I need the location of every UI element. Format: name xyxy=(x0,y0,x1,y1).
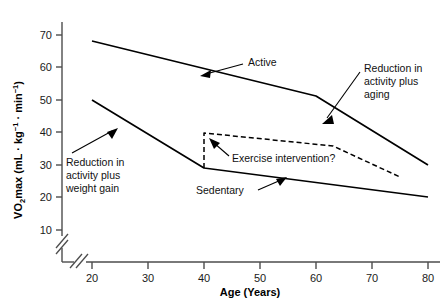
x-axis-break-icon xyxy=(70,254,88,268)
x-tick-label-50: 50 xyxy=(254,272,266,284)
annotation-exercise-intervention: Exercise intervention? xyxy=(209,138,335,164)
annotation-aging-label-line2: activity plus xyxy=(364,75,418,87)
y-axis-title-mid: · min xyxy=(12,93,24,123)
annotation-sedentary-label: Sedentary xyxy=(196,184,245,196)
y-axis-title: VO2max (mL · kg−1 · min−1) xyxy=(11,81,27,219)
y-tick-label-70: 70 xyxy=(40,29,52,41)
annotation-exercise-label: Exercise intervention? xyxy=(232,152,335,164)
annotation-weight-gain-leader xyxy=(72,131,112,153)
y-axis-title-main: VO xyxy=(12,203,24,219)
annotation-aging-label-line3: aging xyxy=(364,88,390,100)
y-tick-label-40: 40 xyxy=(40,126,52,138)
chart-figure: VO2max (mL · kg−1 · min−1) 70 60 50 xyxy=(0,0,448,300)
annotation-weight-gain-label-line1: Reduction in xyxy=(66,156,125,168)
svg-text:VO2max (mL · kg−1 · min−1): VO2max (mL · kg−1 · min−1) xyxy=(11,81,27,219)
x-axis-title: Age (Years) xyxy=(220,286,281,298)
y-tick-label-10: 10 xyxy=(40,224,52,236)
x-tick-label-20: 20 xyxy=(86,272,98,284)
annotation-aging-label-line1: Reduction in xyxy=(364,62,423,74)
annotation-sedentary: Sedentary xyxy=(196,177,287,196)
annotation-reduction-activity-aging: Reduction in activity plus aging xyxy=(322,62,423,124)
x-tick-label-30: 30 xyxy=(142,272,154,284)
x-tick-label-60: 60 xyxy=(310,272,322,284)
annotation-weight-gain-arrowhead-icon xyxy=(107,128,118,139)
y-axis-title-sup1: −1 xyxy=(11,123,20,132)
series-line-sedentary xyxy=(92,100,428,197)
annotation-active-arrowhead-icon xyxy=(200,70,211,78)
vo2max-age-line-chart: VO2max (mL · kg−1 · min−1) 70 60 50 xyxy=(0,0,448,300)
y-axis-title-sup2: −1 xyxy=(11,85,20,94)
y-tick-label-50: 50 xyxy=(40,94,52,106)
annotation-weight-gain-label-line2: activity plus xyxy=(66,169,120,181)
y-tick-label-20: 20 xyxy=(40,191,52,203)
annotation-active: Active xyxy=(200,56,277,78)
y-tick-label-60: 60 xyxy=(40,61,52,73)
x-tick-label-80: 80 xyxy=(422,272,434,284)
x-tick-label-40: 40 xyxy=(198,272,210,284)
annotation-weight-gain-label-line3: weight gain xyxy=(65,182,119,194)
y-axis-ticks: 70 60 50 40 30 20 10 xyxy=(40,29,62,236)
x-tick-label-70: 70 xyxy=(366,272,378,284)
y-axis-title-tail: ) xyxy=(12,81,24,85)
x-axis-ticks: 20 30 40 50 60 70 80 xyxy=(86,262,434,284)
y-axis-title-main2: max (mL · kg xyxy=(12,131,24,199)
annotation-active-leader xyxy=(206,64,243,74)
annotation-reduction-activity-weight-gain: Reduction in activity plus weight gain xyxy=(65,128,125,194)
annotation-aging-leader xyxy=(327,72,360,118)
annotation-active-label: Active xyxy=(248,56,277,68)
y-tick-label-30: 30 xyxy=(40,159,52,171)
